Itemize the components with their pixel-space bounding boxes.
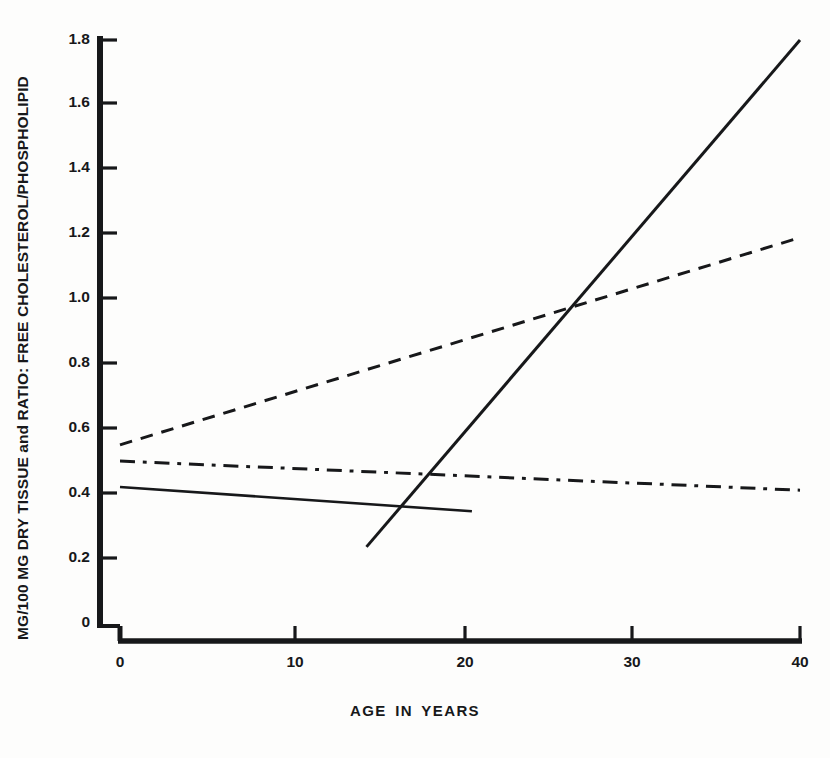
series-steep-rising-solid <box>367 40 801 547</box>
series-short-declining-solid <box>120 487 472 511</box>
y-tick-label: 1.0 <box>38 288 90 306</box>
y-tick-label: 1.4 <box>38 158 90 176</box>
y-tick-label: 0.8 <box>38 353 90 371</box>
y-axis-label: MG/100 MG DRY TISSUE and RATIO: FREE CHO… <box>14 76 32 640</box>
y-tick-label: 0.4 <box>38 483 90 501</box>
x-tick-label: 20 <box>443 653 487 671</box>
data-series <box>120 40 800 547</box>
x-tick-label: 40 <box>778 653 822 671</box>
x-tick-label: 30 <box>610 653 654 671</box>
x-tick-label: 0 <box>98 653 142 671</box>
plot-area <box>0 0 830 758</box>
x-axis-label: AGE IN YEARS <box>0 702 830 719</box>
x-tick-label: 10 <box>273 653 317 671</box>
y-tick-label: 1.8 <box>38 30 90 48</box>
axis-ticks <box>100 40 800 641</box>
y-tick-label: 1.6 <box>38 93 90 111</box>
y-tick-label: 0 <box>38 613 90 631</box>
series-flat-dash-dot <box>120 461 800 490</box>
y-tick-label: 0.6 <box>38 418 90 436</box>
y-tick-label: 1.2 <box>38 223 90 241</box>
series-rising-dashed <box>120 238 800 445</box>
y-tick-label: 0.2 <box>38 548 90 566</box>
axes-lines <box>97 36 802 641</box>
chart-figure: MG/100 MG DRY TISSUE and RATIO: FREE CHO… <box>0 0 830 758</box>
